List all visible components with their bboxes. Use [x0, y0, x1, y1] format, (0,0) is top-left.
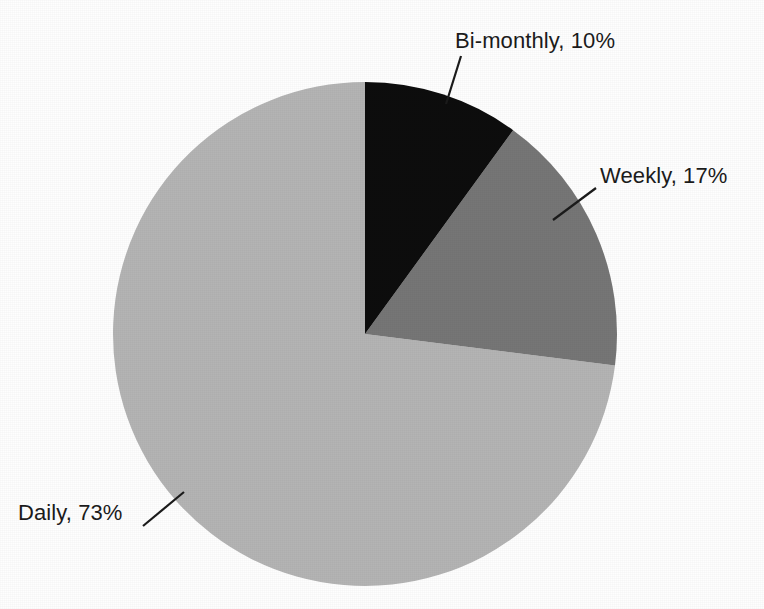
pie-label-weekly: Weekly, 17% [600, 163, 727, 189]
leader-line-bimonthly [446, 56, 461, 104]
pie-label-bimonthly: Bi-monthly, 10% [455, 28, 615, 54]
pie-chart-figure: Bi-monthly, 10% Weekly, 17% Daily, 73% [0, 0, 764, 609]
pie-label-daily: Daily, 73% [18, 500, 123, 526]
leader-line-daily [143, 492, 184, 526]
